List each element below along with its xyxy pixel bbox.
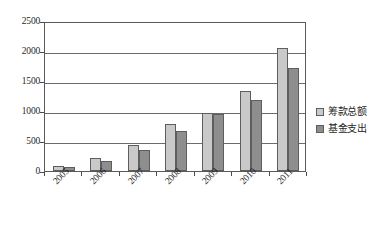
gridline [45,83,305,84]
x-axis-tick-mark [306,172,307,176]
legend-item-label: 基金支出 [328,124,367,134]
bar [176,131,187,171]
plot-area [44,22,306,172]
bar [213,114,224,171]
x-axis-tick-mark [156,172,157,176]
legend-swatch-icon [316,125,324,133]
y-axis: 05001000150020002500 [0,0,40,231]
gridline [45,53,305,54]
legend-item: 基金支出 [316,120,390,137]
gridline [45,113,305,114]
bar [288,68,299,171]
y-axis-tick-label: 2000 [22,47,40,57]
y-axis-tick-label: 1000 [22,107,40,117]
y-axis-tick-label: 2500 [22,17,40,27]
legend-item-label: 筹款总额 [328,107,367,117]
y-axis-tick-label: 1500 [22,77,40,87]
x-axis-tick-mark [81,172,82,176]
bar [240,91,251,171]
bar [251,100,262,171]
legend-swatch-icon [316,108,324,116]
x-axis-tick-mark [231,172,232,176]
x-axis-tick-mark [44,172,45,176]
x-axis-tick-mark [269,172,270,176]
legend: 筹款总额基金支出 [316,103,390,137]
bar [202,113,213,171]
x-axis-tick-mark [119,172,120,176]
bar [165,124,176,171]
y-axis-tick-label: 500 [26,137,40,147]
bar-chart: 05001000150020002500 2005200620072008200… [0,0,392,231]
bar [277,48,288,171]
legend-item: 筹款总额 [316,103,390,120]
x-axis-tick-mark [194,172,195,176]
